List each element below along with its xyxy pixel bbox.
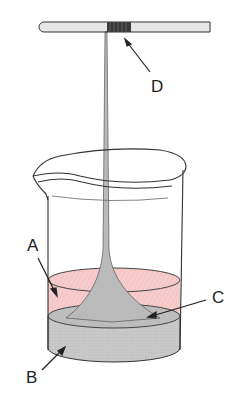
label-C: C [212, 288, 224, 307]
nylon-rope-trick-diagram: D A C B [0, 0, 243, 410]
label-B: B [26, 368, 37, 387]
label-D: D [151, 77, 163, 96]
diagram-stage: D A C B [0, 0, 243, 410]
rod [39, 22, 210, 32]
label-A: A [27, 236, 39, 255]
fiber-wound-on-rod [107, 22, 131, 32]
